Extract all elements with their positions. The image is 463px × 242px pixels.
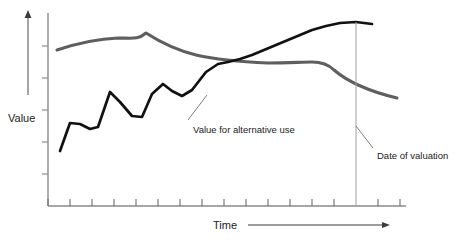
alternative-use-leader-line — [188, 95, 207, 120]
date-of-valuation-leader-line — [356, 126, 373, 148]
y-axis-title: Value — [8, 112, 35, 124]
x-axis-title: Time — [213, 219, 237, 231]
series-line-alternative-use — [57, 33, 397, 98]
x-axis-title-arrow-icon — [248, 222, 390, 228]
x-axis-ticks — [48, 199, 400, 206]
line-chart: Value Time Value for alternative use Dat… — [0, 0, 463, 242]
chart-container: Value Time Value for alternative use Dat… — [0, 0, 463, 242]
annotation-date-of-valuation-label: Date of valuation — [377, 150, 448, 161]
y-axis-ticks — [42, 46, 48, 174]
annotation-alternative-use-label: Value for alternative use — [193, 124, 295, 135]
y-axis-arrow-icon — [25, 10, 32, 95]
